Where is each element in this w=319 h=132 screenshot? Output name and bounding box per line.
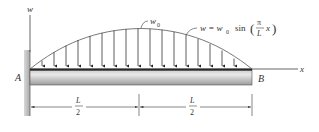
svg-text:): ) <box>272 21 276 36</box>
load-equation: w = w 0 sin ( π L x ) <box>186 18 276 38</box>
svg-text:w = w: w = w <box>200 23 223 33</box>
svg-text:(: ( <box>250 21 254 36</box>
svg-text:L: L <box>256 29 262 38</box>
beam <box>30 69 252 86</box>
dimension-lines <box>31 94 252 116</box>
peak-load-label: w 0 <box>141 16 160 28</box>
dim-label-right: L 2 <box>189 96 197 117</box>
svg-text:0: 0 <box>157 22 160 28</box>
load-arrows <box>42 29 234 67</box>
svg-text:π: π <box>257 18 261 27</box>
svg-text:x: x <box>265 23 270 33</box>
svg-text:sin: sin <box>235 23 246 33</box>
svg-text:L: L <box>189 96 195 105</box>
svg-text:w: w <box>150 16 156 26</box>
w-axis: w <box>27 4 33 52</box>
load-curve <box>30 29 252 70</box>
dim-label-left: L 2 <box>75 96 83 117</box>
x-axis-label: x <box>299 64 304 74</box>
svg-text:0: 0 <box>226 29 229 35</box>
wall-support <box>24 50 30 116</box>
beam-diagram: w x w 0 w = w <box>0 0 319 132</box>
w-axis-label: w <box>27 4 33 14</box>
svg-text:L: L <box>75 96 81 105</box>
svg-text:2: 2 <box>76 108 80 117</box>
svg-text:2: 2 <box>190 108 194 117</box>
end-label-a: A <box>14 72 22 83</box>
end-label-b: B <box>258 73 264 84</box>
